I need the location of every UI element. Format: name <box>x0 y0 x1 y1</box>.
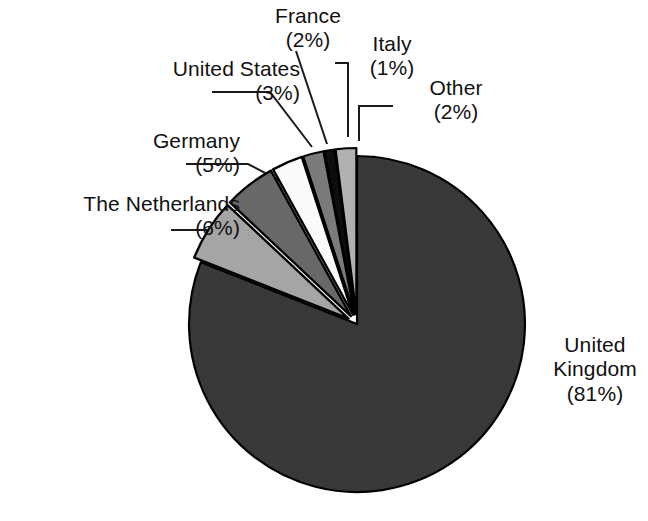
slice-label-italy: Italy (1%) <box>330 32 454 81</box>
slice-label-the-netherlands: The Netherlands (6%) <box>26 192 240 241</box>
slice-label-name-italy: Italy <box>330 32 454 56</box>
slice-label-united-states: United States (3%) <box>110 57 300 106</box>
slice-label-name-united-kingdom-line2: Kingdom <box>545 357 645 381</box>
slice-label-name-united-kingdom-line1: United <box>545 333 645 357</box>
pie-chart-figure: The Netherlands (6%) Germany (5%) United… <box>0 0 648 521</box>
slice-label-germany: Germany (5%) <box>80 129 240 178</box>
slice-label-percent-united-kingdom: (81%) <box>545 382 645 406</box>
slice-label-united-kingdom: United Kingdom (81%) <box>545 333 645 406</box>
slice-label-other: Other (2%) <box>394 76 518 125</box>
leader-line-other <box>359 106 393 141</box>
slice-label-name-france: France <box>246 4 370 28</box>
slice-label-percent-germany: (5%) <box>80 153 240 177</box>
slice-label-percent-the-netherlands: (6%) <box>26 216 240 240</box>
slice-label-name-germany: Germany <box>80 129 240 153</box>
leader-line-france <box>296 51 327 144</box>
slice-label-name-united-states: United States <box>110 57 300 81</box>
slice-label-name-the-netherlands: The Netherlands <box>26 192 240 216</box>
slice-label-percent-united-states: (3%) <box>110 81 300 105</box>
slice-label-name-other: Other <box>394 76 518 100</box>
pie-chart-svg <box>0 0 648 521</box>
slice-label-percent-other: (2%) <box>394 100 518 124</box>
